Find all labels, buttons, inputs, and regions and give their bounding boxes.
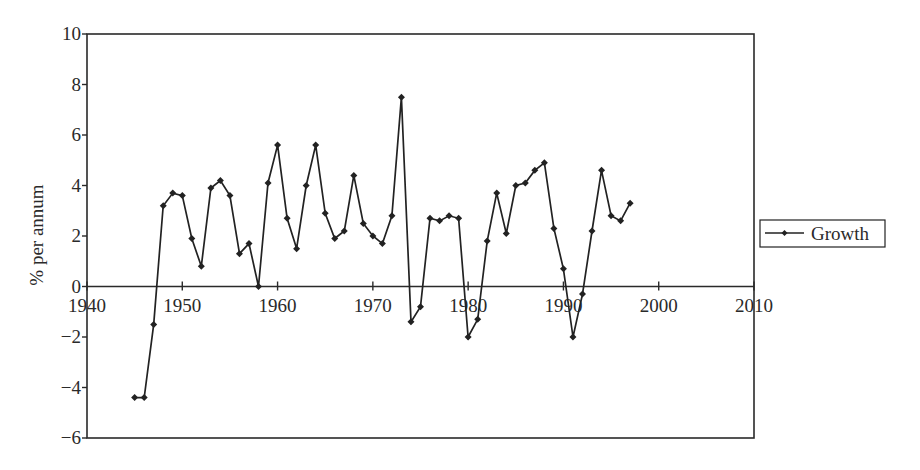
data-point-marker-icon [503, 230, 510, 237]
data-point-marker-icon [198, 263, 205, 270]
data-point-marker-icon [141, 394, 148, 401]
data-point-marker-icon [274, 142, 281, 149]
x-tick-label: 1980 [449, 295, 487, 316]
data-point-marker-icon [436, 217, 443, 224]
y-tick-label: 0 [72, 276, 82, 297]
data-point-marker-icon [427, 215, 434, 222]
data-point-marker-icon [550, 225, 557, 232]
x-tick-label: 2010 [735, 295, 773, 316]
legend: Growth [760, 220, 885, 247]
series-line [135, 97, 630, 398]
y-tick-label: 8 [72, 74, 82, 95]
data-point-marker-icon [598, 167, 605, 174]
data-point-marker-icon [589, 227, 596, 234]
x-tick-label: 1990 [544, 295, 582, 316]
data-point-marker-icon [303, 182, 310, 189]
data-point-marker-icon [446, 212, 453, 219]
data-point-marker-icon [131, 394, 138, 401]
data-point-marker-icon [493, 190, 500, 197]
x-tick-label: 1950 [163, 295, 201, 316]
data-point-marker-icon [350, 172, 357, 179]
data-point-marker-icon [265, 179, 272, 186]
y-tick-label: 6 [72, 124, 82, 145]
growth-line-chart: 1086420−2−4−6 19401950196019701980199020… [0, 0, 920, 470]
data-point-marker-icon [284, 215, 291, 222]
data-point-marker-icon [627, 200, 634, 207]
data-point-marker-icon [474, 316, 481, 323]
x-tick-label: 2000 [640, 295, 678, 316]
x-tick-label: 1970 [354, 295, 392, 316]
data-point-marker-icon [398, 94, 405, 101]
y-tick-label: −6 [61, 427, 81, 448]
data-point-marker-icon [293, 245, 300, 252]
plot-border [87, 34, 754, 438]
data-point-marker-icon [188, 235, 195, 242]
data-point-marker-icon [322, 210, 329, 217]
y-axis-title: % per annum [26, 184, 47, 286]
y-tick-label: 4 [72, 175, 82, 196]
y-tick-label: 10 [62, 23, 81, 44]
plot-frame [87, 34, 754, 438]
legend-label: Growth [811, 223, 870, 244]
growth-series [131, 94, 633, 401]
data-point-marker-icon [179, 192, 186, 199]
y-tick-label: −4 [61, 377, 82, 398]
data-point-marker-icon [465, 334, 472, 341]
data-point-marker-icon [617, 217, 624, 224]
x-tick-label: 1960 [259, 295, 297, 316]
y-tick-label: −2 [61, 326, 81, 347]
data-point-marker-icon [608, 212, 615, 219]
data-point-marker-icon [484, 238, 491, 245]
data-point-marker-icon [312, 142, 319, 149]
data-point-marker-icon [388, 212, 395, 219]
data-point-marker-icon [512, 182, 519, 189]
data-point-marker-icon [569, 334, 576, 341]
data-point-marker-icon [150, 321, 157, 328]
y-axis: 1086420−2−4−6 [61, 23, 87, 448]
data-point-marker-icon [255, 283, 262, 290]
data-point-marker-icon [455, 215, 462, 222]
x-tick-label: 1940 [68, 295, 106, 316]
data-point-marker-icon [560, 265, 567, 272]
y-tick-label: 2 [72, 225, 82, 246]
